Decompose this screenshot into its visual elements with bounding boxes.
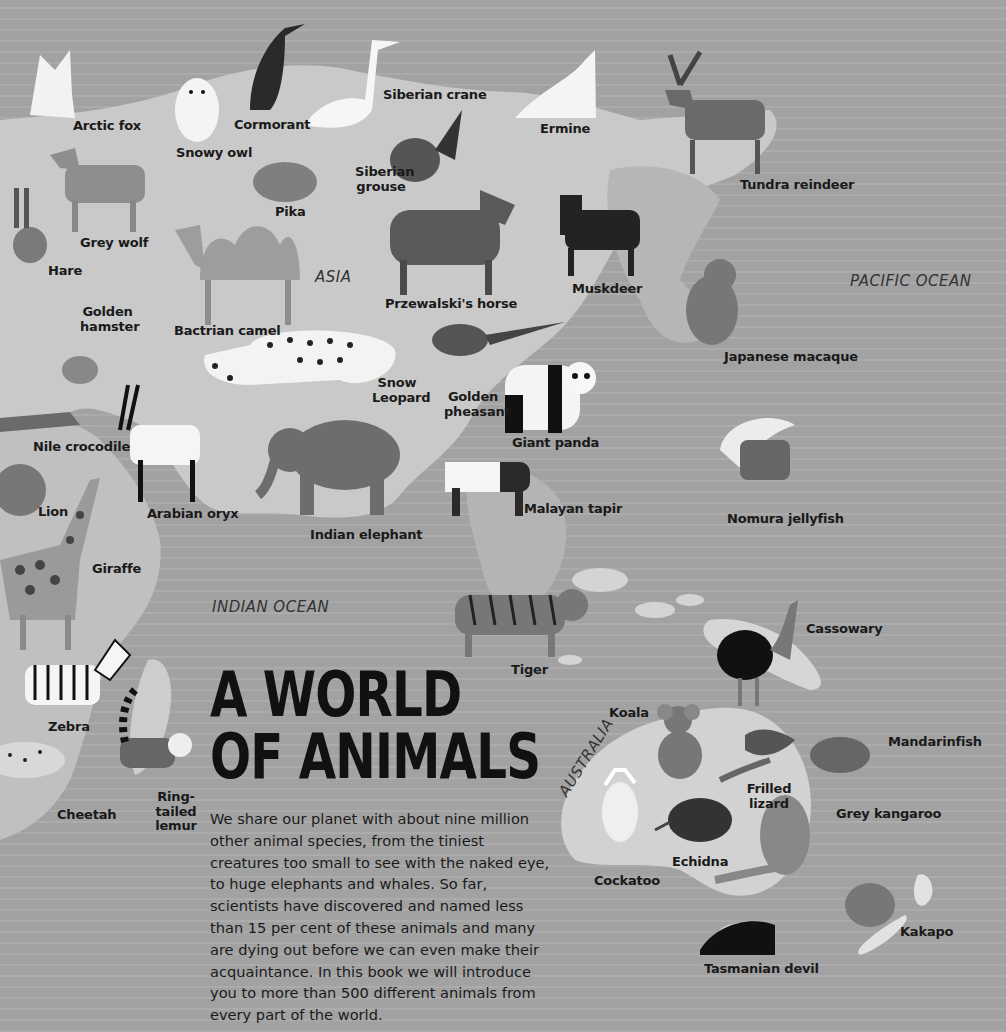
animal-label: Snowy owl: [176, 146, 252, 161]
arctic-fox-figure: [30, 50, 75, 118]
nomura-jellyfish-figure: [720, 418, 795, 480]
animal-label: Muskdeer: [572, 282, 642, 297]
giant-panda-figure: [505, 362, 596, 433]
island: [635, 602, 675, 618]
animal-label: Giraffe: [92, 562, 141, 577]
island: [572, 568, 628, 592]
animal-label: Grey kangaroo: [836, 807, 941, 822]
animal-label: Siberian grouse: [355, 165, 407, 194]
animal-label: Golden hamster: [80, 305, 135, 334]
animal-label: Ring-tailed lemur: [140, 790, 212, 834]
tasmanian-devil-figure: [700, 921, 775, 955]
golden-hamster-figure: [62, 356, 98, 384]
japanese-macaque-figure: [686, 259, 738, 345]
intro-paragraph: We share our planet with about nine mill…: [210, 808, 550, 1026]
animal-label: Lion: [38, 505, 68, 520]
page-title-line-2: OF ANIMALS: [210, 726, 540, 788]
world-animal-map-page: ASIA PACIFIC OCEAN INDIAN OCEAN AUSTRALI…: [0, 0, 1006, 1032]
animal-label: Tundra reindeer: [740, 178, 854, 193]
animal-label: Cheetah: [57, 808, 116, 823]
animal-label: Snow Leopard: [372, 376, 422, 405]
animal-label: Malayan tapir: [524, 502, 622, 517]
island: [558, 655, 582, 665]
animal-label: Mandarinfish: [888, 735, 982, 750]
animal-label: Nile crocodile: [33, 440, 130, 455]
animal-label: Golden pheasant: [444, 390, 502, 419]
animal-label: Bactrian camel: [174, 324, 281, 339]
ermine-figure: [515, 50, 596, 118]
animal-label: Giant panda: [512, 436, 599, 451]
animal-label: Cassowary: [806, 622, 883, 637]
animal-label: Koala: [609, 706, 649, 721]
animal-label: Echidna: [672, 855, 728, 870]
snowy-owl-figure: [175, 78, 219, 142]
tiger-figure: [455, 589, 588, 657]
animal-label: Indian elephant: [310, 528, 422, 543]
cassowary-figure: [717, 600, 798, 706]
animal-label: Ermine: [540, 122, 590, 137]
animal-label: Cormorant: [234, 118, 310, 133]
animal-label: Tasmanian devil: [704, 962, 819, 977]
animal-label: Zebra: [48, 720, 90, 735]
animal-label: Przewalski's horse: [385, 297, 517, 312]
pika-figure: [253, 162, 317, 202]
animal-label: Pika: [275, 205, 306, 220]
koala-figure: [657, 704, 702, 779]
animal-label: Grey wolf: [80, 236, 148, 251]
page-title: A WORLD OF ANIMALS: [210, 664, 540, 788]
region-label-pacific-ocean: PACIFIC OCEAN: [850, 272, 972, 290]
region-label-asia: ASIA: [315, 268, 351, 286]
island: [676, 594, 704, 606]
page-title-line-1: A WORLD: [210, 664, 540, 726]
animal-label: Hare: [48, 264, 82, 279]
animal-label: Cockatoo: [594, 874, 660, 889]
animal-label: Kakapo: [900, 925, 953, 940]
animal-label: Frilled lizard: [744, 782, 794, 811]
animal-label: Arctic fox: [73, 119, 141, 134]
mandarinfish-figure: [810, 737, 870, 773]
region-label-indian-ocean: INDIAN OCEAN: [212, 598, 329, 616]
animal-label: Japanese macaque: [724, 350, 858, 365]
kakapo-figure: [845, 883, 895, 927]
animal-label: Arabian oryx: [147, 507, 238, 522]
animal-label: Nomura jellyfish: [727, 512, 844, 527]
animal-label: Siberian crane: [383, 88, 487, 103]
